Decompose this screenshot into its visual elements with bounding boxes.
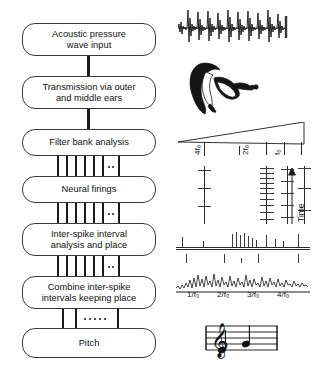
connector-multichannel-2 <box>57 203 121 223</box>
isi-tick <box>198 170 211 171</box>
isi-tick <box>260 212 274 213</box>
pooled-spike-row-secondary <box>176 249 310 263</box>
illustration-musical-staff: 𝄞 <box>200 316 292 364</box>
illustration-acoustic-waveform <box>178 4 296 46</box>
isi-tick <box>260 219 274 220</box>
flowchart-box-isi-analysis: Inter-spike interval analysis and place <box>22 223 156 256</box>
autocorr-xtick-3: 3/f₀ <box>247 290 259 299</box>
figure-canvas: Acoustic pressure wave input Transmissio… <box>0 0 314 370</box>
box-label-line1: Pitch <box>79 338 100 348</box>
isi-tick <box>260 168 274 169</box>
box-label-line1: Filter bank analysis <box>49 137 129 147</box>
flowchart-box-combine-isi: Combine inter-spike intervals keeping pl… <box>22 276 156 309</box>
isi-tick <box>260 199 274 200</box>
box-label-line2: and middle ears <box>42 93 135 103</box>
connector-multichannel-1 <box>57 156 121 176</box>
connector-single-1 <box>87 56 90 76</box>
isi-tick <box>260 188 274 189</box>
flowchart-box-pitch: Pitch <box>22 328 156 358</box>
isi-tick <box>198 206 211 207</box>
autocorr-xtick-2: 2/f₀ <box>217 290 229 299</box>
flowchart-box-neural-firings: Neural firings <box>22 176 156 203</box>
box-label-line1: Inter-spike interval <box>51 229 128 239</box>
connector-multichannel-3 <box>57 256 121 276</box>
connector-multichannel-sparse <box>62 309 120 328</box>
isi-tick <box>260 183 274 184</box>
isi-tick <box>260 173 274 174</box>
box-label-line1: Combine inter-spike <box>42 282 137 292</box>
box-label-line2: intervals keeping place <box>42 293 137 303</box>
isi-tick <box>260 178 274 179</box>
isi-tick <box>260 193 274 194</box>
flowchart-box-acoustic-input: Acoustic pressure wave input <box>22 23 156 56</box>
illustration-ear-anatomy <box>186 58 272 116</box>
box-label-line1: Acoustic pressure <box>52 29 126 39</box>
isi-tick <box>198 188 211 189</box>
treble-clef-icon: 𝄞 <box>211 322 229 359</box>
time-axis-label: Time <box>296 203 306 222</box>
box-label-line2: wave input <box>52 40 126 50</box>
ear-anatomy-svg <box>186 58 272 116</box>
autocorr-xtick-1: 1/f₀ <box>187 290 199 299</box>
filter-label-4f0: 4f₀ <box>193 145 202 155</box>
box-label-line1: Transmission via outer <box>42 82 135 92</box>
box-label-line2: analysis and place <box>51 240 128 250</box>
box-label-line1: Neural firings <box>62 184 117 194</box>
connector-single-2 <box>87 109 90 129</box>
flowchart-box-filter-bank: Filter bank analysis <box>22 129 156 156</box>
filter-label-2f0: 2f₀ <box>241 145 250 155</box>
isi-tick <box>260 205 274 206</box>
musical-staff-svg: 𝄞 <box>200 316 292 364</box>
waveform-svg <box>178 4 296 46</box>
autocorr-xtick-4: 4/f₀ <box>277 290 289 299</box>
flowchart-box-transmission: Transmission via outer and middle ears <box>22 76 156 109</box>
filter-label-f0: f₀ <box>273 149 282 155</box>
pooled-spike-row <box>176 228 310 248</box>
